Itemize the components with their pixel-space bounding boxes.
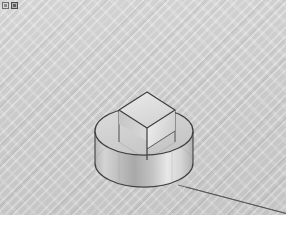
window-right-margin bbox=[286, 0, 292, 228]
application-window bbox=[0, 0, 292, 228]
3d-scene[interactable] bbox=[0, 0, 286, 215]
select-tool-icon[interactable] bbox=[2, 2, 9, 9]
move-tool-icon[interactable] bbox=[11, 2, 18, 9]
ground-axis-line-front bbox=[186, 187, 286, 214]
window-bottom-margin bbox=[0, 215, 292, 228]
toolbar[interactable] bbox=[2, 2, 18, 9]
3d-viewport[interactable] bbox=[0, 0, 286, 215]
